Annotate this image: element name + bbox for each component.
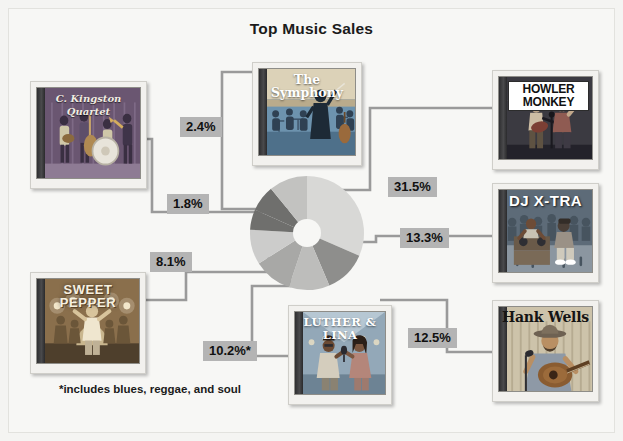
pie-center-hole bbox=[293, 219, 321, 247]
album-title-the-symphony: The Symphony bbox=[259, 72, 355, 100]
callout-label-howler-monkey: 31.5% bbox=[388, 177, 437, 197]
jewel-case-spine bbox=[499, 77, 507, 159]
callout-label-dj-x-tra: 13.3% bbox=[400, 228, 449, 248]
callout-label-the-symphony: 2.4% bbox=[180, 117, 222, 137]
album-cover-dj-x-tra[interactable]: DJ X-TRA bbox=[492, 183, 599, 283]
album-cover-luther-and-lina[interactable]: LUTHER & LINA bbox=[288, 305, 392, 405]
footnote-text: *includes blues, reggae, and soul bbox=[30, 383, 270, 395]
album-title-c-kingston-quartet: C. Kingston Quartet bbox=[37, 91, 140, 119]
callout-label-luther-and-lina: 10.2%* bbox=[203, 341, 257, 361]
callout-label-sweet-pepper: 8.1% bbox=[150, 252, 192, 272]
album-title-luther-and-lina: LUTHER & LINA bbox=[295, 315, 385, 343]
callout-label-c-kingston-quartet: 1.8% bbox=[167, 194, 209, 214]
album-title-howler-monkey: HOWLER MONKEY bbox=[508, 81, 589, 111]
poster-canvas: Top Music Sales bbox=[0, 0, 623, 441]
album-cover-sweet-pepper[interactable]: SWEET PEPPER bbox=[30, 272, 146, 374]
album-cover-the-symphony[interactable]: The Symphony bbox=[252, 62, 362, 166]
album-title-hank-wells: Hank Wells bbox=[499, 310, 592, 325]
pie-chart bbox=[246, 172, 368, 294]
album-title-sweet-pepper: SWEET PEPPER bbox=[37, 282, 139, 310]
album-title-dj-x-tra: DJ X-TRA bbox=[499, 193, 592, 208]
album-cover-hank-wells[interactable]: Hank Wells bbox=[492, 300, 599, 402]
album-cover-howler-monkey[interactable]: HOWLER MONKEY bbox=[492, 70, 599, 170]
callout-label-hank-wells: 12.5% bbox=[408, 328, 457, 348]
album-cover-c-kingston-quartet[interactable]: C. Kingston Quartet bbox=[30, 81, 147, 189]
